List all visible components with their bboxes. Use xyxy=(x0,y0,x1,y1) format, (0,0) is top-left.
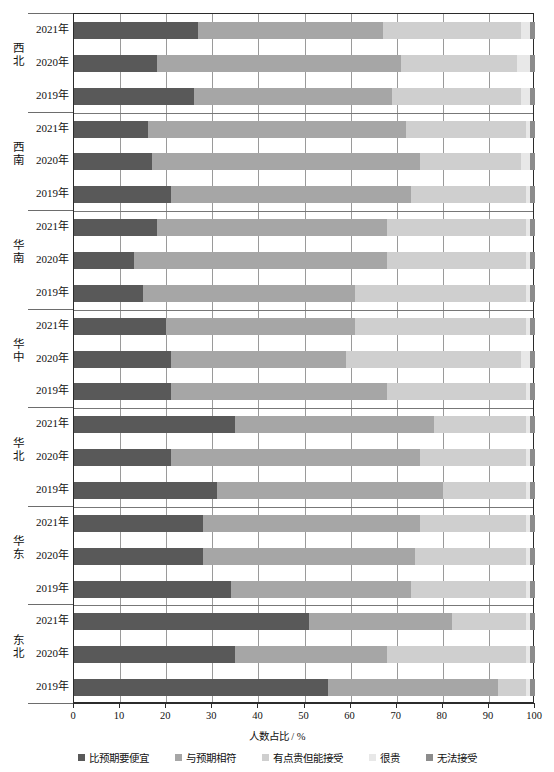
bar-segment[interactable] xyxy=(530,285,535,302)
bar-segment[interactable] xyxy=(521,153,530,170)
bar-segment[interactable] xyxy=(530,186,535,203)
bar-segment[interactable] xyxy=(74,252,134,269)
bar-segment[interactable] xyxy=(74,383,171,400)
bar-row[interactable] xyxy=(74,88,533,105)
bar-segment[interactable] xyxy=(355,285,526,302)
bar-segment[interactable] xyxy=(530,581,535,598)
bar-row[interactable] xyxy=(74,186,533,203)
bar-segment[interactable] xyxy=(420,449,526,466)
bar-segment[interactable] xyxy=(309,613,452,630)
bar-segment[interactable] xyxy=(411,186,526,203)
bar-row[interactable] xyxy=(74,22,533,39)
bar-row[interactable] xyxy=(74,153,533,170)
legend-item[interactable]: 无法接受 xyxy=(426,750,477,765)
bar-segment[interactable] xyxy=(443,482,526,499)
legend-item[interactable]: 比预期要便宜 xyxy=(78,750,149,765)
bar-segment[interactable] xyxy=(198,22,382,39)
bar-row[interactable] xyxy=(74,679,533,696)
bar-segment[interactable] xyxy=(171,186,411,203)
bar-segment[interactable] xyxy=(74,351,171,368)
bar-segment[interactable] xyxy=(74,285,143,302)
bar-segment[interactable] xyxy=(521,88,530,105)
bar-segment[interactable] xyxy=(530,515,535,532)
bar-segment[interactable] xyxy=(387,646,525,663)
bar-segment[interactable] xyxy=(74,679,328,696)
bar-row[interactable] xyxy=(74,55,533,72)
bar-segment[interactable] xyxy=(434,416,526,433)
bar-segment[interactable] xyxy=(203,515,420,532)
bar-segment[interactable] xyxy=(420,153,521,170)
bar-segment[interactable] xyxy=(530,88,535,105)
bar-segment[interactable] xyxy=(171,449,420,466)
bar-row[interactable] xyxy=(74,515,533,532)
bar-row[interactable] xyxy=(74,646,533,663)
bar-segment[interactable] xyxy=(74,22,198,39)
bar-segment[interactable] xyxy=(74,416,235,433)
bar-segment[interactable] xyxy=(420,515,526,532)
bar-segment[interactable] xyxy=(235,646,387,663)
bar-segment[interactable] xyxy=(346,351,521,368)
bar-segment[interactable] xyxy=(148,121,406,138)
bar-segment[interactable] xyxy=(355,318,526,335)
bar-segment[interactable] xyxy=(387,252,525,269)
bar-segment[interactable] xyxy=(530,383,535,400)
bar-segment[interactable] xyxy=(387,383,525,400)
bar-segment[interactable] xyxy=(530,613,535,630)
bar-segment[interactable] xyxy=(74,88,194,105)
bar-segment[interactable] xyxy=(530,55,535,72)
bar-segment[interactable] xyxy=(194,88,392,105)
bar-segment[interactable] xyxy=(411,581,526,598)
bar-segment[interactable] xyxy=(530,416,535,433)
bar-row[interactable] xyxy=(74,219,533,236)
bar-segment[interactable] xyxy=(498,679,526,696)
bar-row[interactable] xyxy=(74,482,533,499)
bar-segment[interactable] xyxy=(328,679,499,696)
bar-segment[interactable] xyxy=(406,121,526,138)
bar-row[interactable] xyxy=(74,351,533,368)
bar-segment[interactable] xyxy=(392,88,521,105)
bar-row[interactable] xyxy=(74,581,533,598)
bar-segment[interactable] xyxy=(171,383,388,400)
bar-row[interactable] xyxy=(74,121,533,138)
bar-segment[interactable] xyxy=(530,679,535,696)
bar-segment[interactable] xyxy=(74,121,148,138)
bar-segment[interactable] xyxy=(387,219,525,236)
bar-segment[interactable] xyxy=(203,548,415,565)
bar-segment[interactable] xyxy=(143,285,355,302)
bar-segment[interactable] xyxy=(74,646,235,663)
bar-segment[interactable] xyxy=(235,416,433,433)
bar-row[interactable] xyxy=(74,383,533,400)
bar-segment[interactable] xyxy=(217,482,443,499)
bar-row[interactable] xyxy=(74,285,533,302)
legend-item[interactable]: 很贵 xyxy=(369,750,400,765)
bar-segment[interactable] xyxy=(452,613,526,630)
bar-segment[interactable] xyxy=(530,351,535,368)
bar-segment[interactable] xyxy=(521,351,530,368)
bar-segment[interactable] xyxy=(383,22,521,39)
bar-row[interactable] xyxy=(74,548,533,565)
legend-item[interactable]: 与预期相符 xyxy=(175,750,236,765)
bar-segment[interactable] xyxy=(152,153,419,170)
bar-segment[interactable] xyxy=(415,548,526,565)
bar-segment[interactable] xyxy=(74,581,231,598)
bar-segment[interactable] xyxy=(231,581,411,598)
bar-segment[interactable] xyxy=(74,153,152,170)
bar-segment[interactable] xyxy=(74,449,171,466)
bar-segment[interactable] xyxy=(74,548,203,565)
bar-segment[interactable] xyxy=(530,318,535,335)
bar-segment[interactable] xyxy=(171,351,346,368)
bar-segment[interactable] xyxy=(530,219,535,236)
bar-segment[interactable] xyxy=(74,55,157,72)
bar-row[interactable] xyxy=(74,252,533,269)
bar-row[interactable] xyxy=(74,416,533,433)
bar-segment[interactable] xyxy=(521,22,530,39)
bar-segment[interactable] xyxy=(517,55,531,72)
bar-segment[interactable] xyxy=(530,646,535,663)
bar-row[interactable] xyxy=(74,318,533,335)
bar-row[interactable] xyxy=(74,613,533,630)
bar-segment[interactable] xyxy=(157,219,388,236)
bar-segment[interactable] xyxy=(74,515,203,532)
bar-segment[interactable] xyxy=(74,219,157,236)
bar-segment[interactable] xyxy=(530,153,535,170)
legend-item[interactable]: 有点贵但能接受 xyxy=(262,750,343,765)
